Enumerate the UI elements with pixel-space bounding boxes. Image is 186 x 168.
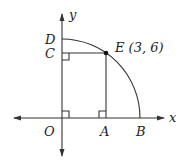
label-B: B xyxy=(135,124,146,139)
label-D: D xyxy=(44,32,56,47)
label-E: E (3, 6) xyxy=(114,40,164,55)
right-angle-mark-C xyxy=(62,53,69,60)
diagram: y x D C E (3, 6) O A B xyxy=(0,0,186,168)
label-O: O xyxy=(44,124,55,139)
right-angle-mark-A xyxy=(99,111,106,118)
y-axis-label: y xyxy=(68,7,77,22)
x-axis-label: x xyxy=(169,110,177,125)
label-A: A xyxy=(99,124,109,139)
point-E xyxy=(104,51,109,56)
right-angle-mark-O xyxy=(62,111,69,118)
label-C: C xyxy=(45,46,55,61)
